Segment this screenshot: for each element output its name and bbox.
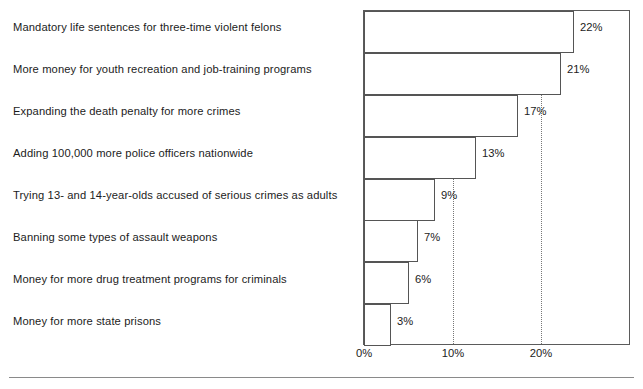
bar-row	[364, 304, 391, 346]
chart-page: Mandatory life sentences for three-time …	[0, 0, 643, 389]
category-label: Money for more drug treatment programs f…	[13, 273, 353, 285]
bar-value-label: 9%	[441, 189, 457, 201]
category-label: Trying 13- and 14-year-olds accused of s…	[13, 189, 353, 201]
bar-value-label: 6%	[415, 273, 431, 285]
bar-row	[364, 95, 518, 137]
category-label: Adding 100,000 more police officers nati…	[13, 147, 353, 159]
bar-value-label: 7%	[424, 231, 440, 243]
bar-row	[364, 179, 435, 221]
bar-value-label: 13%	[482, 147, 504, 159]
bar-value-label: 21%	[567, 63, 589, 75]
bar-value-label: 17%	[524, 105, 546, 117]
bar-value-label: 22%	[580, 21, 602, 33]
plot-frame: 22% 21% 17% 13% 9% 7% 6% 3%	[363, 10, 630, 345]
bar-row	[364, 11, 574, 53]
x-tick-label-10: 10%	[442, 347, 464, 360]
category-label: Mandatory life sentences for three-time …	[13, 21, 353, 33]
bar-row	[364, 220, 418, 262]
category-label: Expanding the death penalty for more cri…	[13, 105, 353, 117]
page-bottom-rule	[9, 377, 634, 378]
x-tick-label-20: 20%	[530, 347, 552, 360]
category-label: More money for youth recreation and job-…	[13, 63, 353, 75]
plot-area: 22% 21% 17% 13% 9% 7% 6% 3%	[364, 11, 629, 344]
bar-row	[364, 137, 476, 179]
bar-row	[364, 53, 561, 95]
category-label-column: Mandatory life sentences for three-time …	[0, 10, 356, 345]
category-label: Banning some types of assault weapons	[13, 231, 353, 243]
category-label: Money for more state prisons	[13, 315, 353, 327]
bar-value-label: 3%	[397, 315, 413, 327]
x-tick-label-0: 0%	[356, 347, 372, 360]
bar-row	[364, 262, 409, 304]
x-axis: 0% 10% 20%	[363, 347, 643, 365]
